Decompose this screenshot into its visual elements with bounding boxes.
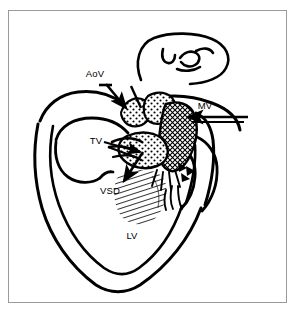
septal-defect-hatching xyxy=(114,170,166,224)
label-tv: TV xyxy=(90,135,103,146)
leader-arrow-mv xyxy=(188,117,248,122)
label-mv: MV xyxy=(198,100,213,111)
heart-diagram: AoV MV TV VSD LV xyxy=(0,0,296,313)
label-vsd: VSD xyxy=(100,185,120,196)
figure-root: AoV MV TV VSD LV xyxy=(0,0,296,313)
label-aov: AoV xyxy=(86,68,105,79)
label-lv: LV xyxy=(126,230,138,241)
great-vessel-outline xyxy=(138,34,228,84)
